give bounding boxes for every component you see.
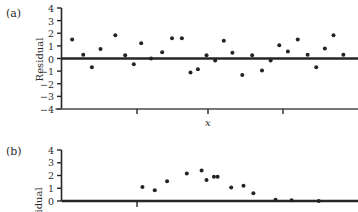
data-point (185, 172, 189, 176)
data-point (165, 179, 169, 183)
data-point (212, 175, 216, 179)
data-point (242, 184, 246, 188)
data-point (229, 186, 233, 190)
residual-plots-figure: (a) Residual 4 3 2 1 0 −1 −2 −3 −4 x (b)… (0, 0, 358, 212)
data-point (251, 191, 255, 195)
data-point (200, 168, 204, 172)
data-point (290, 198, 294, 202)
data-point (317, 199, 321, 203)
data-point (274, 198, 278, 202)
panel-b-plot-area (0, 0, 358, 212)
data-point (205, 178, 209, 182)
data-point (140, 185, 144, 189)
data-point (216, 175, 220, 179)
data-point (153, 188, 157, 192)
